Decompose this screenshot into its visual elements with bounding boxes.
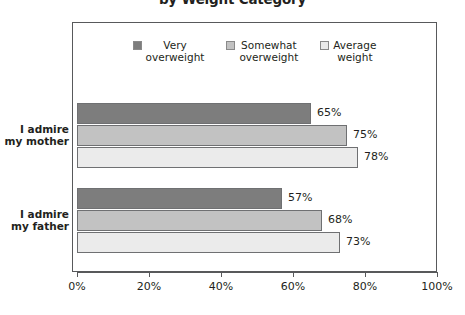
bar-row: 65% <box>77 103 437 124</box>
legend-label-average-weight: Average weight <box>333 40 376 63</box>
legend-label-somewhat-overweight: Somewhat overweight <box>239 40 298 63</box>
bar-group-mother: 65% 75% 78% <box>77 103 437 169</box>
bar-value-label: 57% <box>288 191 312 204</box>
bar-row: 78% <box>77 147 437 168</box>
bar-father-very-overweight <box>77 188 282 209</box>
plot-area: I admire my mother I admire my father 65… <box>77 103 437 272</box>
x-axis-tick-label: 40% <box>209 280 233 293</box>
legend-item-somewhat-overweight: Somewhat overweight <box>226 40 298 63</box>
bar-row: 73% <box>77 232 437 253</box>
bar-value-label: 73% <box>346 235 370 248</box>
bar-row: 68% <box>77 210 437 231</box>
x-axis-line <box>77 272 437 273</box>
bar-father-average-weight <box>77 232 340 253</box>
bar-row: 75% <box>77 125 437 146</box>
x-axis-tick <box>437 272 438 277</box>
x-axis-tick <box>365 272 366 277</box>
legend-swatch-very-overweight <box>133 41 142 50</box>
x-axis-tick-label: 60% <box>281 280 305 293</box>
chart-title: by Weight Category <box>0 0 465 7</box>
legend-item-average-weight: Average weight <box>320 40 376 63</box>
x-axis-tick <box>149 272 150 277</box>
x-axis-tick <box>221 272 222 277</box>
bar-row: 57% <box>77 188 437 209</box>
x-axis-tick-label: 20% <box>137 280 161 293</box>
legend-swatch-average-weight <box>320 41 329 50</box>
bar-value-label: 78% <box>364 150 388 163</box>
bar-mother-somewhat-overweight <box>77 125 347 146</box>
bar-group-father: 57% 68% 73% <box>77 188 437 254</box>
legend-swatch-somewhat-overweight <box>226 41 235 50</box>
bar-mother-very-overweight <box>77 103 311 124</box>
x-axis-tick-label: 80% <box>353 280 377 293</box>
bar-mother-average-weight <box>77 147 358 168</box>
bar-value-label: 68% <box>328 213 352 226</box>
x-axis-tick-label: 100% <box>421 280 452 293</box>
x-axis-tick <box>77 272 78 277</box>
legend-label-very-overweight: Very overweight <box>146 40 205 63</box>
bar-value-label: 65% <box>317 106 341 119</box>
chart-legend: Very overweight Somewhat overweight Aver… <box>72 40 437 63</box>
legend-item-very-overweight: Very overweight <box>133 40 205 63</box>
x-axis-tick <box>293 272 294 277</box>
bar-father-somewhat-overweight <box>77 210 322 231</box>
category-label-father: I admire my father <box>1 208 69 232</box>
category-label-mother: I admire my mother <box>1 123 69 147</box>
x-axis-tick-label: 0% <box>68 280 85 293</box>
bar-value-label: 75% <box>353 128 377 141</box>
